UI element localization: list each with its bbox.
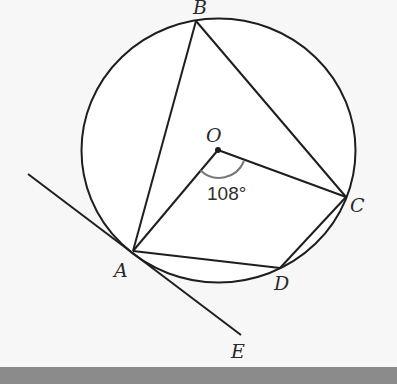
label-d: D [273, 272, 289, 294]
circle-theorem-diagram: B O C A D E 108° [0, 0, 397, 384]
footer-bar [0, 367, 397, 384]
label-b: B [192, 0, 207, 18]
label-c: C [350, 194, 365, 216]
angle-value-label: 108° [207, 183, 246, 204]
centre-point-o [215, 147, 221, 153]
label-e: E [230, 340, 245, 362]
label-a: A [112, 259, 128, 281]
label-o: O [206, 124, 222, 146]
